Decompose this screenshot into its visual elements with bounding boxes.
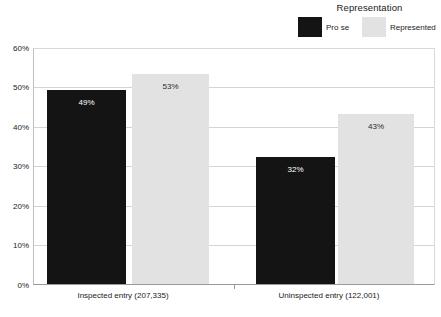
bar-label-uninspected-represented: 43% bbox=[338, 123, 414, 131]
plot-area: 49% 53% 32% 43% bbox=[33, 48, 435, 285]
y-axis-tick-50: 50% bbox=[0, 84, 29, 92]
y-axis-tick-0: 0% bbox=[0, 282, 29, 290]
bar-label-uninspected-pro-se: 32% bbox=[256, 166, 335, 174]
x-axis-tick-mark bbox=[234, 285, 235, 289]
y-axis-tick-30: 30% bbox=[0, 163, 29, 171]
y-axis-tick-40: 40% bbox=[0, 124, 29, 132]
legend-swatch-pro-se bbox=[298, 17, 322, 37]
legend-swatch-represented bbox=[362, 17, 386, 37]
legend-label-represented: Represented bbox=[390, 23, 436, 32]
y-axis-tick-20: 20% bbox=[0, 203, 29, 211]
bar-inspected-pro-se[interactable]: 49% bbox=[47, 90, 126, 284]
chart-legend: Representation Pro se Represented bbox=[298, 2, 441, 42]
bar-uninspected-represented[interactable]: 43% bbox=[338, 114, 414, 284]
x-axis-label-uninspected-entry: Uninspected entry (122,001) bbox=[236, 292, 422, 300]
legend-title: Representation bbox=[298, 2, 441, 13]
bar-label-inspected-pro-se: 49% bbox=[47, 99, 126, 107]
gridline-50 bbox=[34, 87, 434, 88]
legend-entry-pro-se[interactable]: Pro se bbox=[298, 16, 349, 38]
x-axis-label-inspected-entry: Inspected entry (207,335) bbox=[33, 292, 213, 300]
bar-label-inspected-represented: 53% bbox=[132, 83, 209, 91]
bar-chart: Representation Pro se Represented 60% 50… bbox=[0, 0, 441, 317]
bar-uninspected-pro-se[interactable]: 32% bbox=[256, 157, 335, 284]
y-axis-tick-60: 60% bbox=[0, 45, 29, 53]
legend-entry-represented[interactable]: Represented bbox=[362, 16, 436, 38]
legend-items: Pro se Represented bbox=[298, 16, 441, 38]
legend-label-pro-se: Pro se bbox=[326, 23, 349, 32]
y-axis-tick-10: 10% bbox=[0, 242, 29, 250]
bar-inspected-represented[interactable]: 53% bbox=[132, 74, 209, 284]
